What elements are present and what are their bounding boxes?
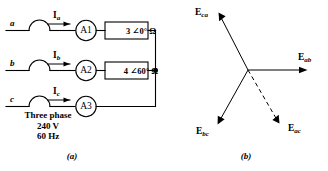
current-label-ia: Ia xyxy=(53,11,60,22)
ammeter-label-a1: A1 xyxy=(75,26,97,36)
phasor-subscript-eac: ac xyxy=(294,127,301,135)
current-arrow-head-b xyxy=(64,61,71,66)
figure-container: a b c Ia Ib Ic A1 A2 A3 3 ∠0° Ω 4 ∠60° Ω… xyxy=(0,0,328,171)
phasor-line-eac xyxy=(248,70,277,119)
wire-hop-arc-b xyxy=(29,60,50,71)
source-line-voltage: 240 V xyxy=(11,121,85,132)
phasor-subscript-eab: ab xyxy=(304,56,311,64)
phase-label-a: a xyxy=(10,19,15,28)
source-description: Three phase 240 V 60 Hz xyxy=(11,110,85,142)
phasor-subscript-eca: ca xyxy=(201,11,208,19)
phase-label-b: b xyxy=(10,59,15,68)
phasor-arrowhead-eac xyxy=(272,115,279,124)
phasor-label-eab: Eab xyxy=(298,53,311,64)
phasor-subscript-ebc: bc xyxy=(202,130,209,138)
caption-panel-b: (b) xyxy=(164,152,328,161)
phasor-line-eca xyxy=(221,17,249,71)
phasor-diagram-artwork xyxy=(164,0,328,171)
impedance-value-2: 4 ∠60° Ω xyxy=(112,67,170,76)
impedance-value-1: 3 ∠0° Ω xyxy=(112,27,170,36)
ammeter-label-a2: A2 xyxy=(75,66,97,76)
phase-label-c: c xyxy=(10,95,14,104)
phasor-arrowhead-eab xyxy=(299,67,308,73)
current-arrow-head-a xyxy=(64,21,71,26)
current-label-ib: Ib xyxy=(53,51,60,62)
phasor-label-eca: Eca xyxy=(195,8,208,19)
source-line-type: Three phase xyxy=(11,110,85,121)
phasor-line-ebc xyxy=(220,70,248,120)
current-subscript-ib: b xyxy=(57,54,61,62)
caption-panel-a: (a) xyxy=(0,152,144,161)
phasor-label-ebc: Ebc xyxy=(196,127,209,138)
current-subscript-ia: a xyxy=(57,14,61,22)
wire-hop-arc-c xyxy=(29,96,50,106)
current-subscript-ic: c xyxy=(57,90,60,98)
phasor-label-eac: Eac xyxy=(288,124,301,135)
source-line-frequency: 60 Hz xyxy=(11,131,85,142)
circuit-diagram-panel: a b c Ia Ib Ic A1 A2 A3 3 ∠0° Ω 4 ∠60° Ω… xyxy=(0,0,164,171)
wire-hop-arc-a xyxy=(29,20,50,30)
current-arrow-head-c xyxy=(64,97,71,102)
phasor-diagram-panel: Eca Eab Ebc Eac (b) xyxy=(164,0,328,171)
current-label-ic: Ic xyxy=(53,87,60,98)
